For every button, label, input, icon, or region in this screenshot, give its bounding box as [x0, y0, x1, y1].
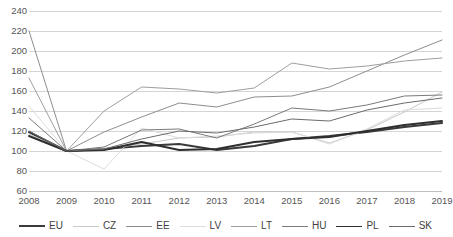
legend-label: PL — [366, 221, 378, 231]
y-tick-label: 240 — [0, 6, 27, 16]
series-line-hu — [29, 95, 442, 151]
legend-item-ee[interactable]: EE — [126, 221, 169, 231]
legend-swatch-sk — [389, 226, 415, 227]
legend-item-lt[interactable]: LT — [231, 221, 272, 231]
x-tick-label: 2018 — [394, 195, 415, 206]
y-tick-label: 120 — [0, 126, 27, 136]
x-tick-label: 2009 — [56, 195, 77, 206]
legend-item-cz[interactable]: CZ — [73, 221, 116, 231]
legend-swatch-pl — [336, 226, 362, 227]
legend-item-pl[interactable]: PL — [336, 221, 378, 231]
plot-area — [29, 11, 442, 191]
y-tick-label: 160 — [0, 86, 27, 96]
chart-legend: EUCZEELVLTHUPLSK — [0, 215, 451, 237]
legend-swatch-lt — [231, 226, 257, 227]
x-tick-label: 2014 — [244, 195, 265, 206]
gridline-60 — [29, 191, 442, 192]
y-tick-label: 80 — [0, 166, 27, 176]
series-line-cz — [29, 92, 442, 151]
x-tick-label: 2015 — [281, 195, 302, 206]
x-tick-label: 2013 — [206, 195, 227, 206]
legend-label: HU — [312, 221, 326, 231]
x-tick-label: 2008 — [18, 195, 39, 206]
y-tick-label: 180 — [0, 66, 27, 76]
series-lines — [29, 11, 442, 191]
legend-label: SK — [419, 221, 432, 231]
series-line-eu — [29, 123, 442, 151]
x-tick-label: 2016 — [319, 195, 340, 206]
x-tick-label: 2017 — [356, 195, 377, 206]
y-tick-label: 140 — [0, 106, 27, 116]
legend-item-eu[interactable]: EU — [19, 221, 63, 231]
y-tick-label: 220 — [0, 26, 27, 36]
y-tick-label: 100 — [0, 146, 27, 156]
legend-swatch-lv — [180, 226, 206, 227]
legend-label: CZ — [103, 221, 116, 231]
legend-item-sk[interactable]: SK — [389, 221, 432, 231]
y-tick-label: 200 — [0, 46, 27, 56]
chart-title — [0, 0, 451, 4]
legend-swatch-cz — [73, 226, 99, 227]
legend-label: LT — [261, 221, 272, 231]
x-axis-labels: 2008200920102011201220132014201520162017… — [29, 195, 442, 209]
legend-label: LV — [210, 221, 222, 231]
legend-label: EU — [49, 221, 63, 231]
legend-swatch-ee — [126, 226, 152, 227]
legend-swatch-hu — [282, 226, 308, 227]
x-tick-label: 2012 — [169, 195, 190, 206]
legend-item-hu[interactable]: HU — [282, 221, 326, 231]
x-tick-label: 2011 — [131, 195, 151, 206]
series-line-lv — [29, 106, 442, 169]
legend-swatch-eu — [19, 225, 45, 227]
x-tick-label: 2019 — [431, 195, 452, 206]
legend-label: EE — [156, 221, 169, 231]
x-tick-label: 2010 — [94, 195, 115, 206]
legend-item-lv[interactable]: LV — [180, 221, 222, 231]
series-line-lt — [29, 58, 442, 151]
